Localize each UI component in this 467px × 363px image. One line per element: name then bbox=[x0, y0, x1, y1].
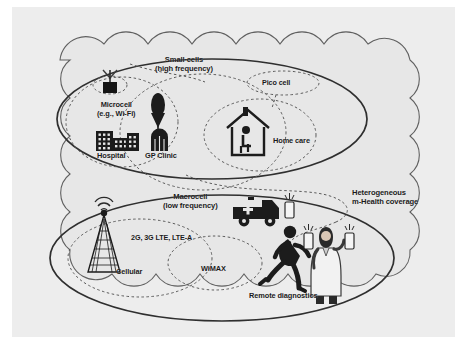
macrocell-label: Macrocell(low frequency) bbox=[163, 193, 218, 211]
mobile-phone-icon-doctor bbox=[345, 224, 354, 249]
macrocell-label-line2: (low frequency) bbox=[163, 201, 218, 210]
gp-clinic-label: GP Clinic bbox=[145, 152, 177, 161]
wimax-label: WiMAX bbox=[201, 265, 226, 274]
microcell-label-line1: Microcell bbox=[101, 100, 132, 109]
small-cells-label-line1: Small cells bbox=[165, 55, 203, 64]
macrocell-label-line1: Macrocell bbox=[173, 192, 207, 201]
mobile-phone-icon-runner bbox=[304, 224, 313, 249]
hospital-label: Hospital bbox=[97, 152, 125, 161]
remote-diagnostics-label: Remote diagnostics bbox=[249, 292, 317, 301]
coverage-label-line1: Heterogeneous bbox=[352, 188, 406, 197]
technologies-label: 2G, 3G LTE, LTE-A bbox=[131, 234, 192, 242]
small-cells-label-line2: (high frequency) bbox=[155, 64, 213, 73]
pico-cell-label: Pico cell bbox=[262, 79, 290, 87]
small-cells-label: Small cells(high frequency) bbox=[155, 56, 213, 74]
figure-root: Small cells(high frequency) Pico cell Mi… bbox=[0, 0, 467, 363]
gp-clinic-icon bbox=[151, 129, 168, 152]
coverage-label: Heterogeneousm-Health coverage bbox=[352, 189, 418, 207]
cellular-label: Cellular bbox=[116, 268, 142, 277]
home-care-label: Home care bbox=[273, 137, 310, 146]
microcell-label: Microcell(e.g., Wi-Fi) bbox=[97, 101, 135, 118]
coverage-label-line2: m-Health coverage bbox=[352, 197, 418, 206]
network-coverage-diagram bbox=[0, 0, 467, 363]
microcell-label-line2: (e.g., Wi-Fi) bbox=[97, 109, 135, 118]
mobile-phone-icon-ambulance bbox=[285, 193, 294, 218]
